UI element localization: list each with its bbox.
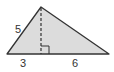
triangle-diagram: 5 3 6 bbox=[0, 0, 114, 72]
base-right-segment-label: 6 bbox=[72, 57, 78, 69]
triangle bbox=[7, 7, 109, 54]
base-left-segment-label: 3 bbox=[20, 57, 26, 69]
left-side-label: 5 bbox=[15, 23, 21, 35]
